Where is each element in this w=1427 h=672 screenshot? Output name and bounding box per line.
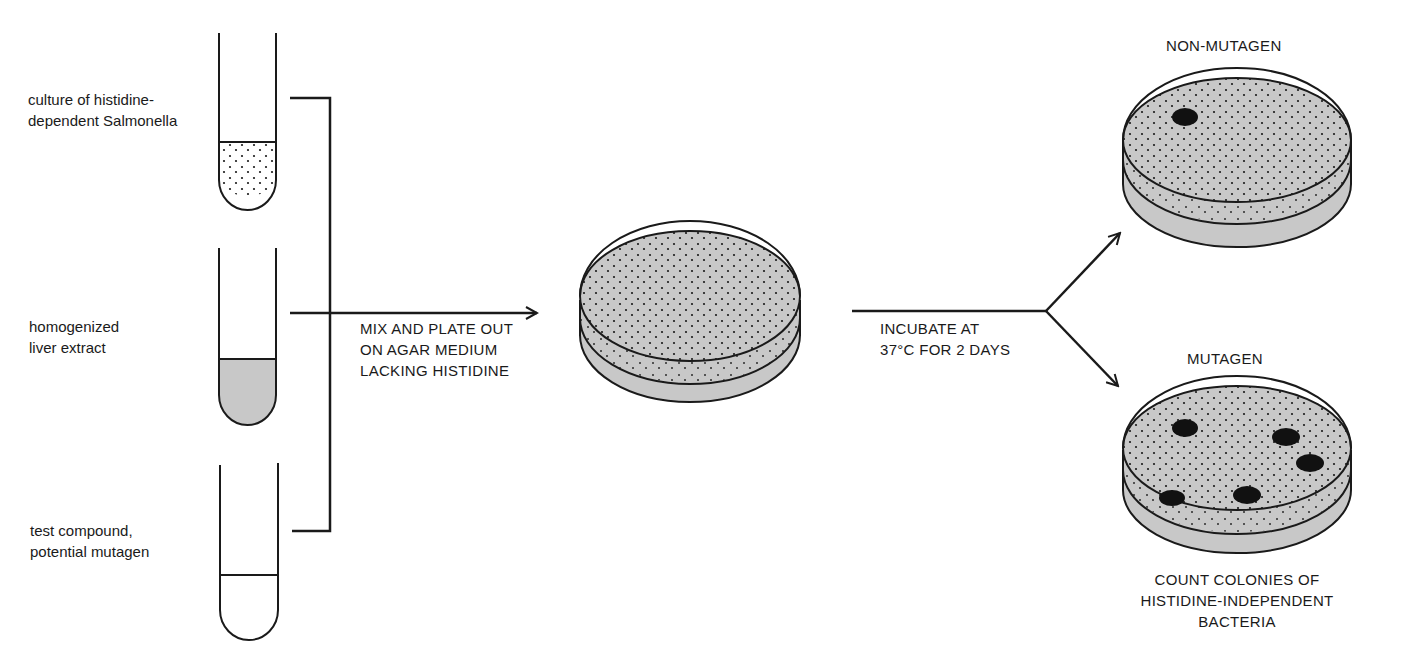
label-line: BACTERIA — [1117, 611, 1357, 632]
tube-salmonella — [219, 33, 276, 210]
petri-dish-mutagen — [1123, 376, 1351, 553]
label-line: 37°C FOR 2 DAYS — [880, 339, 1010, 360]
label-line: LACKING HISTIDINE — [360, 360, 513, 381]
combine-bracket — [290, 98, 330, 531]
tube-compound-label: test compound, potential mutagen — [30, 520, 149, 562]
label-line: dependent Salmonella — [28, 110, 177, 131]
colony — [1233, 486, 1261, 504]
count-colonies-label: COUNT COLONIES OF HISTIDINE-INDEPENDENT … — [1117, 569, 1357, 632]
incubate-arrows — [852, 233, 1120, 386]
incubate-step-label: INCUBATE AT 37°C FOR 2 DAYS — [880, 318, 1010, 360]
label-line: liver extract — [29, 337, 119, 358]
colony — [1172, 108, 1198, 126]
label-line: culture of histidine- — [28, 89, 177, 110]
tube-salmonella-label: culture of histidine- dependent Salmonel… — [28, 89, 177, 131]
non-mutagen-label: NON-MUTAGEN — [1166, 35, 1282, 56]
mix-step-label: MIX AND PLATE OUT ON AGAR MEDIUM LACKING… — [360, 318, 513, 381]
label-line: MIX AND PLATE OUT — [360, 318, 513, 339]
mutagen-label: MUTAGEN — [1187, 348, 1263, 369]
label-line: ON AGAR MEDIUM — [360, 339, 513, 360]
petri-dish-plated — [580, 221, 800, 402]
label-line: INCUBATE AT — [880, 318, 1010, 339]
tube-liver-extract — [219, 248, 276, 425]
tube-liver-label: homogenized liver extract — [29, 316, 119, 358]
label-line: potential mutagen — [30, 541, 149, 562]
label-line: HISTIDINE-INDEPENDENT — [1117, 590, 1357, 611]
label-line: test compound, — [30, 520, 149, 541]
colony — [1172, 419, 1198, 437]
label-line: COUNT COLONIES OF — [1117, 569, 1357, 590]
tube-test-compound — [220, 463, 278, 640]
petri-dish-non-mutagen — [1123, 68, 1351, 247]
label-line: homogenized — [29, 316, 119, 337]
colony — [1296, 454, 1324, 472]
colony — [1159, 490, 1185, 506]
colony — [1272, 428, 1300, 446]
